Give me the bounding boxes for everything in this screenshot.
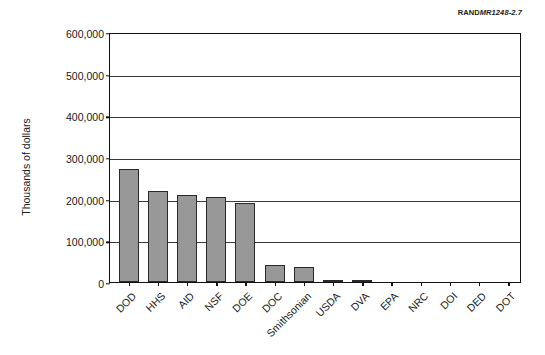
y-tick-label: 100,000: [66, 237, 104, 248]
bar-hhs[interactable]: [148, 191, 168, 282]
y-tick-label: 0: [98, 279, 104, 290]
x-tick-mark: [479, 282, 480, 286]
y-tick-label: 400,000: [66, 112, 104, 123]
x-tick-mark: [158, 282, 159, 286]
bar-slot: [348, 32, 377, 282]
bar-slot: [172, 32, 201, 282]
bars-layer: [110, 34, 520, 282]
bar-slot: [202, 32, 231, 282]
x-tick-mark: [362, 282, 363, 286]
x-tick-mark: [333, 282, 334, 286]
y-tick-label: 300,000: [66, 154, 104, 165]
x-tick-mark: [245, 282, 246, 286]
bar-slot: [318, 32, 347, 282]
bar-slot: [464, 32, 493, 282]
bar-slot: [289, 32, 318, 282]
y-tick-label: 200,000: [66, 195, 104, 206]
bar-slot: [260, 32, 289, 282]
bar-chart-figure: RANDMR1248-2.7 Thousands of dollars 600,…: [0, 0, 545, 355]
x-tick-mark: [421, 282, 422, 286]
y-axis-title: Thousands of dollars: [19, 37, 33, 297]
x-tick-mark: [216, 282, 217, 286]
x-tick-mark: [304, 282, 305, 286]
bar-nsf[interactable]: [206, 197, 226, 282]
bar-aid[interactable]: [177, 195, 197, 283]
bar-slot: [231, 32, 260, 282]
bar-slot: [494, 32, 523, 282]
x-tick-mark: [391, 282, 392, 286]
plot-area: 600,000500,000400,000300,000200,000100,0…: [109, 33, 521, 283]
bar-slot: [406, 32, 435, 282]
bar-slot: [143, 32, 172, 282]
x-tick-mark: [275, 282, 276, 286]
y-tick-label: 600,000: [66, 29, 104, 40]
x-tick-mark: [129, 282, 130, 286]
bar-slot: [377, 32, 406, 282]
bar-doe[interactable]: [235, 203, 255, 282]
bar-slot: [114, 32, 143, 282]
x-tick-mark: [187, 282, 188, 286]
bar-slot: [435, 32, 464, 282]
bar-dod[interactable]: [119, 169, 139, 282]
rand-source-tag: RANDMR1248-2.7: [458, 9, 522, 17]
x-tick-mark: [508, 282, 509, 286]
y-tick-mark: [106, 283, 110, 284]
y-tick-label: 500,000: [66, 70, 104, 81]
rand-brand-label: RAND: [458, 8, 480, 17]
x-tick-mark: [450, 282, 451, 286]
x-axis-labels: DODHHSAIDNSFDOEDOCSmithsonianUSDADVAEPAN…: [109, 289, 521, 355]
rand-document-id: MR1248-2.7: [480, 8, 522, 17]
